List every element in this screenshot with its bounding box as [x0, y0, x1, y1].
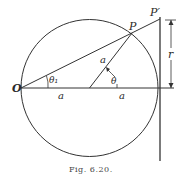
label-origin: O: [12, 82, 22, 95]
label-radius-r: r: [168, 48, 174, 61]
r-arrowhead-top-icon: [169, 20, 174, 25]
label-point-p-prime: P′: [149, 6, 160, 19]
label-theta: θ: [111, 76, 117, 86]
figure-caption: Fig. 6.20.: [69, 165, 113, 174]
figure-6-20-diagram: O P P′ r θ₁ θ a a a Fig. 6.20.: [0, 0, 181, 182]
label-a-right: a: [119, 90, 125, 101]
label-point-p: P: [128, 20, 137, 33]
r-arrowhead-bottom-icon: [169, 83, 174, 88]
line-o-to-p-prime: [21, 19, 160, 88]
label-a-left: a: [58, 90, 64, 101]
label-a-radius: a: [100, 54, 106, 65]
label-theta-1: θ₁: [49, 75, 58, 85]
theta1-arc: [47, 76, 49, 88]
